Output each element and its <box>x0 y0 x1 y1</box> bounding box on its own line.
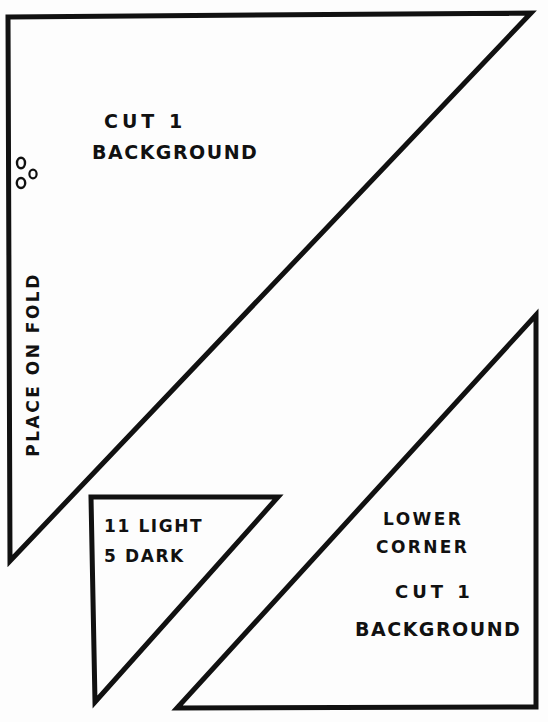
fold-mark-circle-3 <box>17 178 25 188</box>
fold-circle-marks <box>17 158 37 188</box>
lower-corner-name-line1-label: LOWER <box>383 511 463 528</box>
pattern-drawing <box>0 0 548 722</box>
main-piece-fabric-label: BACKGROUND <box>92 143 258 162</box>
fold-mark-circle-2 <box>29 170 36 179</box>
background-main-triangle <box>8 13 531 561</box>
small-piece-dark-count-label: 5 DARK <box>104 548 185 565</box>
main-piece-cut-count-label: CUT 1 <box>104 112 186 131</box>
fold-mark-circle-1 <box>17 158 25 168</box>
lower-corner-name-line2-label: CORNER <box>376 539 469 556</box>
lower-piece-cut-count-label: CUT 1 <box>395 583 474 601</box>
pattern-sheet: CUT 1 BACKGROUND PLACE ON FOLD 11 LIGHT … <box>0 0 548 722</box>
lower-piece-fabric-label: BACKGROUND <box>355 620 521 639</box>
place-on-fold-label: PLACE ON FOLD <box>25 260 42 470</box>
small-piece-light-count-label: 11 LIGHT <box>104 518 203 535</box>
lower-corner-triangle <box>177 315 536 708</box>
